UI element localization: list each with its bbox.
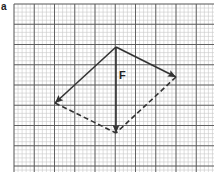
force-label-F: F: [119, 69, 126, 81]
force-diagram: F: [0, 0, 214, 175]
graph-paper-grid: [14, 4, 214, 172]
force-vectors: [55, 47, 176, 133]
